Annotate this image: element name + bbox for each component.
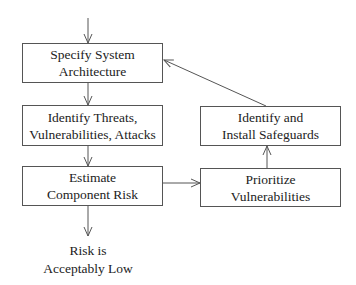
node-specify-architecture: Specify System Architecture (22, 43, 163, 83)
node-text: Architecture (59, 63, 126, 80)
node-text: Component Risk (47, 186, 138, 203)
terminal-text: Risk is (28, 242, 148, 260)
node-text: Install Safeguards (222, 126, 319, 143)
terminal-text: Acceptably Low (28, 260, 148, 278)
node-text: Identify and (238, 109, 304, 126)
arrow-safeguards-to-specify (164, 60, 266, 106)
node-text: Vulnerabilities, Attacks (29, 126, 156, 143)
node-text: Vulnerabilities (231, 188, 310, 205)
node-prioritize-vulnerabilities: Prioritize Vulnerabilities (200, 168, 341, 207)
node-identify-threats: Identify Threats, Vulnerabilities, Attac… (22, 105, 163, 146)
node-text: Specify System (50, 46, 134, 63)
node-text: Estimate (69, 169, 116, 186)
node-estimate-risk: Estimate Component Risk (22, 166, 163, 206)
node-text: Identify Threats, (48, 109, 138, 126)
node-text: Prioritize (245, 171, 295, 188)
node-install-safeguards: Identify and Install Safeguards (200, 106, 341, 146)
terminal-risk-low: Risk is Acceptably Low (28, 242, 148, 278)
